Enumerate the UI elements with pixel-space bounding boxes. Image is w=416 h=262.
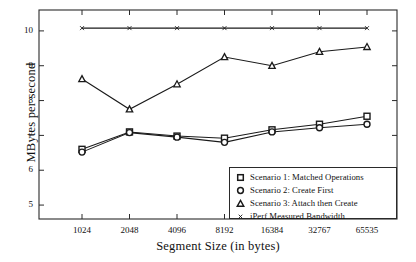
x-tick-label: 8192 xyxy=(202,225,248,235)
y-tick-label: 8 xyxy=(13,95,33,105)
series-triangle xyxy=(79,44,370,112)
series-cross xyxy=(80,26,369,30)
legend-item-scenario-3: Scenario 3: Attach then Create xyxy=(230,197,398,209)
x-tick-label: 4096 xyxy=(154,225,200,235)
x-tick-label: 32767 xyxy=(297,225,343,235)
x-tick-label: 16384 xyxy=(249,225,295,235)
triangle-marker-icon xyxy=(230,197,250,209)
line-chart-plot xyxy=(0,0,416,262)
series-square xyxy=(79,113,370,152)
legend-label-scenario-2: Scenario 2: Create First xyxy=(250,185,333,195)
y-tick-label: 9 xyxy=(13,60,33,70)
y-tick-label: 7 xyxy=(13,129,33,139)
y-tick-label: 5 xyxy=(13,199,33,209)
legend-item-scenario-1: Scenario 1: Matched Operations xyxy=(230,171,398,183)
x-tick-label: 65535 xyxy=(344,225,390,235)
chart-figure: MBytes per second Segment Size (in bytes… xyxy=(0,0,416,262)
x-tick-label: 1024 xyxy=(59,225,105,235)
legend-label-scenario-3: Scenario 3: Attach then Create xyxy=(250,198,358,208)
x-tick-label: 2048 xyxy=(107,225,153,235)
legend-item-scenario-2: Scenario 2: Create First xyxy=(230,184,398,196)
circle-marker-icon xyxy=(230,184,250,196)
legend-item-iperf: iPerf Measured Bandwidth xyxy=(230,210,398,222)
legend-label-scenario-1: Scenario 1: Matched Operations xyxy=(250,172,364,182)
y-tick-label: 6 xyxy=(13,164,33,174)
cross-marker-icon xyxy=(230,210,250,222)
legend-label-iperf: iPerf Measured Bandwidth xyxy=(250,211,345,221)
chart-legend: Scenario 1: Matched Operations Scenario … xyxy=(229,167,397,219)
y-tick-label: 10 xyxy=(13,25,33,35)
square-marker-icon xyxy=(230,171,250,183)
x-axis-title: Segment Size (in bytes) xyxy=(39,239,397,254)
